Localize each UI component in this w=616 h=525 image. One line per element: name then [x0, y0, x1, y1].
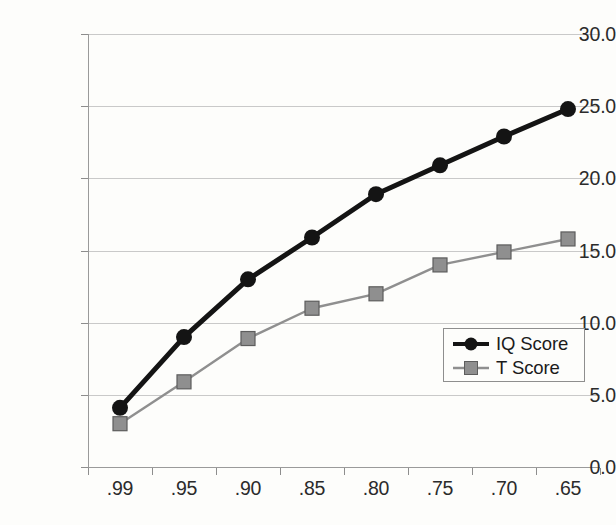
data-point[interactable]: [176, 329, 192, 345]
data-point[interactable]: [432, 157, 448, 173]
data-point[interactable]: [112, 400, 128, 416]
legend-item-t-score[interactable]: T Score: [444, 356, 584, 380]
legend-label-iq-score: IQ Score: [491, 333, 568, 355]
data-point[interactable]: [496, 128, 512, 144]
data-point[interactable]: [304, 230, 320, 246]
data-point[interactable]: [497, 245, 511, 259]
data-point[interactable]: [368, 186, 384, 202]
circle-marker-icon: [451, 334, 491, 354]
data-point[interactable]: [240, 271, 256, 287]
square-marker-icon: [451, 358, 491, 378]
legend-item-iq-score[interactable]: IQ Score: [444, 332, 584, 356]
legend: IQ Score T Score: [443, 328, 585, 382]
data-point[interactable]: [560, 101, 576, 117]
line-chart: 0.05.010.015.020.025.030.0 .99.95.90.85.…: [0, 0, 616, 525]
series-layer: [0, 0, 616, 525]
data-point[interactable]: [433, 258, 447, 272]
data-point[interactable]: [241, 332, 255, 346]
data-point[interactable]: [177, 375, 191, 389]
data-point[interactable]: [305, 301, 319, 315]
data-point[interactable]: [561, 232, 575, 246]
data-point[interactable]: [369, 287, 383, 301]
data-point[interactable]: [113, 417, 127, 431]
legend-label-t-score: T Score: [491, 357, 560, 379]
